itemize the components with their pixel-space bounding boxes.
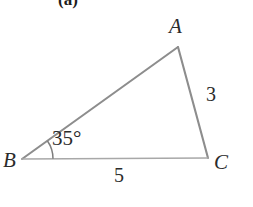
angle-measure-label-b: 35° [52,128,81,149]
side-length-label-ac: 3 [206,84,216,104]
triangle-side-ab [22,47,178,159]
triangle-side-bc [22,158,208,159]
vertex-label-a: A [169,16,182,37]
vertex-label-b: B [3,150,16,171]
triangle-side-ac [178,47,208,158]
side-length-label-bc: 5 [114,165,124,185]
vertex-label-c: C [214,152,228,173]
geometry-figure: (a) A B C 3 5 35° [0,0,253,207]
